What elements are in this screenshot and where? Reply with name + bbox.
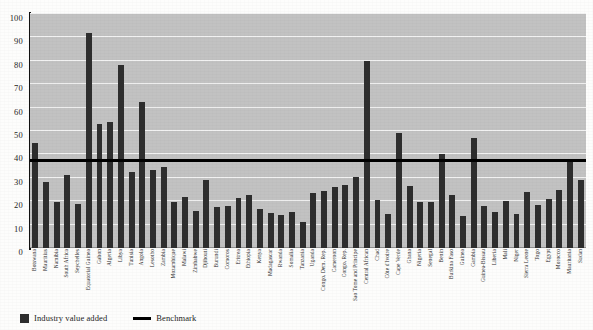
x-axis-label: Guinea: [460, 249, 465, 265]
bar: [535, 205, 541, 248]
bar: [236, 198, 242, 248]
legend-item-benchmark: Benchmark: [133, 313, 196, 323]
bar: [514, 214, 520, 248]
bar: [300, 222, 306, 248]
legend-label-benchmark: Benchmark: [156, 313, 196, 323]
bar: [460, 216, 466, 248]
x-axis-label: Ethiopia: [246, 249, 251, 268]
bar: [225, 206, 231, 248]
x-axis-label: Chad: [375, 249, 380, 261]
bar: [139, 102, 145, 248]
bar: [278, 215, 284, 248]
bar: [54, 202, 60, 248]
x-axis-label: Congo, Rep.: [342, 249, 347, 277]
x-axis-label: Ghana: [407, 249, 412, 264]
bar: [481, 206, 487, 248]
x-axis-label: Gabon: [97, 249, 102, 264]
x-axis-label: Zambia: [161, 249, 166, 266]
x-axis-label: Seychelles: [75, 249, 80, 273]
bar: [546, 199, 552, 248]
x-axis-label: Tanzania: [300, 249, 305, 269]
x-axis-label: Djibouti: [203, 249, 208, 268]
bar: [503, 201, 509, 248]
benchmark-line: [30, 159, 586, 162]
bar: [407, 186, 413, 248]
bar: [385, 214, 391, 248]
bar: [257, 209, 263, 248]
bar: [193, 211, 199, 248]
bar: [492, 212, 498, 248]
bar: [203, 180, 209, 248]
bar: [396, 133, 402, 248]
x-axis-label: Somalia: [289, 249, 294, 267]
x-axis-label: Central African: [364, 249, 369, 284]
bar-series-industry-value-added: [30, 14, 586, 248]
x-axis-label: South Africa: [64, 249, 69, 278]
bar: [578, 180, 584, 248]
bar: [353, 177, 359, 248]
legend-label-industry-value-added: Industry value added: [34, 313, 107, 323]
x-axis-label: Eritrea: [236, 249, 241, 264]
x-axis-label: Comoros: [225, 249, 230, 269]
bar: [43, 182, 49, 248]
y-axis-tick-labels: 0102030405060708090100: [0, 14, 26, 248]
bar: [342, 185, 348, 248]
x-axis-label: Niger: [514, 249, 519, 262]
x-axis-label: Togo: [535, 249, 540, 260]
x-axis-label: Burundi: [214, 249, 219, 267]
bar: [428, 202, 434, 248]
x-axis-label: Lesotho: [150, 249, 155, 267]
bar: [161, 167, 167, 248]
x-axis-label: Benin: [439, 249, 444, 262]
bar: [171, 202, 177, 248]
bar: [150, 170, 156, 248]
bar: [417, 202, 423, 248]
x-axis-label: Senegal: [428, 249, 433, 267]
x-axis-label: Morocco: [556, 249, 561, 269]
bar: [182, 197, 188, 248]
chart-figure: 0102030405060708090100 BotswanaMauritius…: [0, 0, 593, 330]
x-axis-label: Malawi: [182, 249, 187, 266]
x-axis-label: Tunisia: [129, 249, 134, 266]
x-axis-label: Guinea-Bissau: [481, 249, 486, 282]
x-axis-category-labels: BotswanaMauritiusNamibiaSouth AfricaSeyc…: [30, 249, 586, 311]
x-axis-label: Nigeria: [417, 249, 422, 266]
x-axis-label: Gambia: [471, 249, 476, 267]
x-axis-label: Sudan: [578, 249, 583, 263]
x-axis-label: Sierra Leone: [524, 249, 529, 278]
legend-bar-swatch-icon: [20, 314, 29, 323]
x-axis-label: Mozambique: [171, 249, 176, 278]
bar: [439, 154, 445, 248]
bar: [268, 213, 274, 248]
x-axis-label: Madagascar: [268, 249, 273, 276]
x-axis-label: Cameroon: [332, 249, 337, 272]
x-axis-label: Sao Tome and Principe: [353, 249, 358, 301]
x-axis-label: Algeria: [107, 249, 112, 266]
plot-area: [30, 14, 586, 248]
legend-item-industry-value-added: Industry value added: [20, 313, 107, 323]
bar: [471, 138, 477, 248]
bar: [321, 191, 327, 248]
bar: [75, 204, 81, 248]
bar: [449, 195, 455, 248]
bar: [310, 193, 316, 248]
bar: [567, 159, 573, 248]
bar: [332, 187, 338, 248]
bar: [246, 195, 252, 248]
x-axis-label: Kenya: [257, 249, 262, 264]
bar: [86, 33, 92, 248]
bar: [289, 212, 295, 248]
bar: [64, 175, 70, 248]
x-axis-label: Botswana: [32, 249, 37, 271]
x-axis-label: Burkina Faso: [449, 249, 454, 279]
bar: [214, 207, 220, 248]
x-axis-label: Liberia: [492, 249, 497, 265]
x-axis-label: Cape Verde: [396, 249, 401, 275]
legend-line-swatch-icon: [133, 317, 151, 320]
x-axis-label: Congo, Dem. Rep.: [321, 249, 326, 291]
bar: [375, 200, 381, 248]
bar: [118, 65, 124, 248]
x-axis-label: Angola: [139, 249, 144, 265]
bar: [97, 124, 103, 248]
x-axis-label: Mali: [503, 249, 508, 260]
